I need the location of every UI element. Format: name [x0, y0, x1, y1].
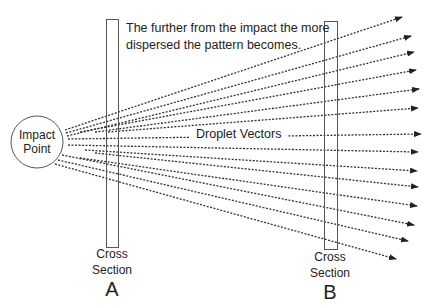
droplet-vector-arrow: [68, 145, 418, 152]
cross-section-a-label: Cross Section A: [82, 246, 142, 300]
impact-label-line-1: Impact: [11, 128, 63, 142]
droplet-vector-arrow: [67, 52, 414, 136]
impact-point-label: Impact Point: [11, 128, 63, 156]
impact-label-line-2: Point: [11, 142, 63, 156]
cross-section-a-rect: [107, 20, 119, 248]
droplet-vector-arrow: [95, 153, 418, 187]
dispersion-note: The further from the impact the more dis…: [126, 20, 330, 54]
cs-a-letter: A: [82, 278, 142, 300]
droplet-vector-arrow: [80, 158, 417, 206]
cross-section-b-label: Cross Section B: [300, 249, 360, 303]
droplet-vector-arrow: [58, 160, 408, 241]
droplet-vector-arrow: [85, 150, 417, 171]
cs-a-line-1: Cross: [82, 246, 142, 262]
note-line-1: The further from the impact the more: [126, 20, 330, 37]
note-line-2: dispersed the pattern becomes.: [126, 37, 330, 54]
droplet-vectors-label: Droplet Vectors: [190, 127, 287, 141]
cs-b-letter: B: [300, 281, 360, 303]
cs-b-line-1: Cross: [300, 249, 360, 265]
cs-b-line-2: Section: [300, 265, 360, 281]
cs-a-line-2: Section: [82, 262, 142, 278]
droplet-vector-arrow: [95, 89, 419, 132]
droplet-vector-arrow: [80, 70, 416, 132]
